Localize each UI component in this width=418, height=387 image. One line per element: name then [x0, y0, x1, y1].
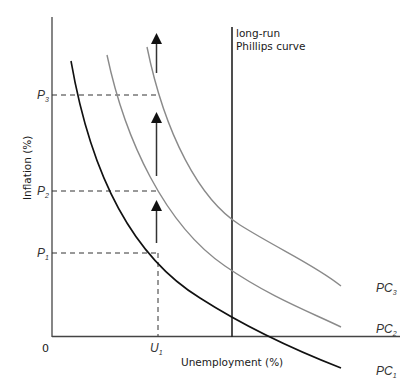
- y-tick-p3: P3: [37, 88, 49, 103]
- pc2-label: PC2: [376, 322, 397, 337]
- lrpc-label-line1: long-run: [236, 27, 280, 39]
- y-tick-p1: P1: [37, 246, 49, 261]
- x-axis-label: Unemployment (%): [181, 356, 283, 368]
- origin-label: 0: [42, 342, 49, 355]
- pc3-curve: [147, 47, 341, 286]
- pc3-label: PC3: [376, 281, 397, 296]
- pc1-label: PC1: [376, 364, 397, 379]
- lrpc-label-line2: Phillips curve: [236, 40, 306, 52]
- phillips-curve-diagram: P3 P2 P1 0 U1 Unemployment (%) Inflation…: [0, 0, 418, 387]
- arrow-icon: [151, 33, 162, 73]
- pc1-curve: [71, 61, 341, 368]
- x-tick-u1: U1: [150, 341, 163, 356]
- arrow-icon: [151, 112, 162, 176]
- dashed-guides: [52, 95, 158, 336]
- arrow-icon: [151, 200, 162, 243]
- y-axis-label: Inflation (%): [21, 136, 33, 200]
- y-tick-p2: P2: [37, 184, 49, 199]
